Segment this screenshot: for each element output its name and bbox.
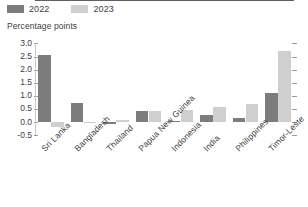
bar-2023-philippines	[246, 104, 258, 122]
bar-2022-timor-leste	[265, 93, 277, 122]
bar-2022-philippines	[233, 118, 245, 122]
bar-2023-papua-new-guinea	[149, 111, 161, 122]
bar-2022-bangladesh	[71, 103, 83, 122]
bar-series-layer	[0, 0, 308, 207]
bar-2023-thailand	[116, 120, 128, 122]
bar-2022-sri-lanka	[38, 55, 50, 122]
zero-baseline	[35, 0, 294, 1]
bar-2023-india	[213, 107, 225, 122]
bar-2022-india	[200, 115, 212, 122]
chart-plot-area: 3.02.52.01.51.00.50.0-0.5 Sri LankaBangl…	[0, 0, 308, 207]
bar-2023-timor-leste	[278, 51, 290, 122]
bar-2022-papua-new-guinea	[136, 111, 148, 122]
